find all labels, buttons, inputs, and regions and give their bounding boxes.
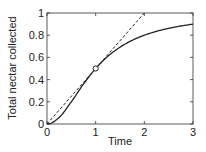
x-tick-label: 2 bbox=[141, 126, 147, 138]
axes-frame bbox=[47, 13, 193, 124]
y-tick-label: 0.4 bbox=[29, 74, 44, 86]
y-tick-label: 0.2 bbox=[29, 96, 44, 108]
y-axis-label: Total nectar collected bbox=[6, 16, 18, 119]
y-tick-label: 0.6 bbox=[29, 51, 44, 63]
y-tick-label: 0 bbox=[38, 118, 44, 130]
tangent-point-marker bbox=[93, 66, 98, 71]
x-tick-label: 1 bbox=[93, 126, 99, 138]
x-axis-label: Time bbox=[108, 135, 132, 147]
x-tick-label: 3 bbox=[190, 126, 196, 138]
y-tick-label: 1 bbox=[38, 7, 44, 19]
plot-area: 012300.20.40.60.81 bbox=[29, 7, 196, 138]
chart: 012300.20.40.60.81 Time Total nectar col… bbox=[0, 0, 206, 152]
nectar-curve bbox=[47, 24, 193, 124]
x-tick-label: 0 bbox=[44, 126, 50, 138]
y-tick-label: 0.8 bbox=[29, 29, 44, 41]
